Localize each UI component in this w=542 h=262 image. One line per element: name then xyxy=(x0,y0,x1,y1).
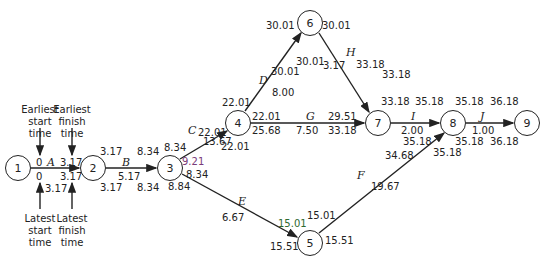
label-j-ef: 36.18 xyxy=(490,97,519,107)
label-g-lf: 33.18 xyxy=(328,126,357,136)
label-a-ef: 3.17 xyxy=(60,158,82,168)
label-n8-bot-right: 35.18 xyxy=(455,137,484,147)
label-n9-bot: 36.18 xyxy=(490,137,519,147)
label-c-lf-text: 22.01 xyxy=(221,141,250,152)
label-n6-right: 30.01 xyxy=(322,21,351,31)
activity-d: D xyxy=(259,75,268,86)
activity-a: A xyxy=(47,157,55,168)
label-n4-top: 22.01 xyxy=(222,98,251,108)
activity-h: H xyxy=(346,47,356,58)
label-h-duration: 3.17 xyxy=(323,61,345,71)
activity-e: E xyxy=(238,196,246,207)
edge-h xyxy=(319,33,369,112)
label-f-lf: 35.18 xyxy=(433,148,462,158)
node-1: 1 xyxy=(5,155,31,181)
label-a-es: 0 xyxy=(36,158,42,168)
label-n5-right: 15.51 xyxy=(325,236,354,246)
label-b-top: 8.34 xyxy=(137,147,159,157)
annotation-latest-finish: Latest finish time xyxy=(50,213,94,249)
node-9: 9 xyxy=(514,110,540,136)
label-n2-top: 3.17 xyxy=(100,147,122,157)
node-5: 5 xyxy=(297,230,323,256)
label-n3-e-es: 8.34 xyxy=(186,170,208,180)
node-2: 2 xyxy=(80,155,106,181)
label-a-ls: 0 xyxy=(36,172,42,182)
label-c-top: 8.34 xyxy=(164,143,186,153)
annotation-earliest-finish: Earliest finish time xyxy=(50,104,94,140)
node-8: 8 xyxy=(440,110,466,136)
label-n8-top-right: 35.18 xyxy=(455,97,484,107)
label-g-duration: 7.50 xyxy=(296,126,318,136)
activity-b: B xyxy=(122,157,130,168)
label-d-duration: 8.00 xyxy=(272,88,294,98)
label-j-duration: 1.00 xyxy=(472,126,494,136)
label-e-ef: 15.01 xyxy=(278,219,307,229)
label-d-lf: 30.01 xyxy=(271,67,300,77)
label-f-ls: 15.01 xyxy=(307,211,336,221)
activity-j: J xyxy=(480,111,484,122)
activity-c: C xyxy=(188,125,196,136)
label-b-lf: 8.34 xyxy=(137,183,159,193)
activity-f: F xyxy=(357,170,365,181)
label-i-ls-top: 33.18 xyxy=(381,97,410,107)
label-a-lf: 3.17 xyxy=(60,172,82,182)
label-n4-left: 22.01 xyxy=(198,128,227,138)
label-d-es: 30.01 xyxy=(296,57,325,67)
label-g-ef: 29.51 xyxy=(328,112,357,122)
node-6: 6 xyxy=(297,10,323,36)
label-g-es: 22.01 xyxy=(252,112,281,122)
label-g-ls: 25.68 xyxy=(252,126,281,136)
label-e-duration: 6.67 xyxy=(222,213,244,223)
activity-g: G xyxy=(306,111,315,122)
activity-i: I xyxy=(411,111,415,122)
label-f-duration: 19.67 xyxy=(371,182,400,192)
node-7: 7 xyxy=(365,110,391,136)
label-h-lf: 33.18 xyxy=(356,60,385,70)
label-n2-bot: 3.17 xyxy=(100,183,122,193)
label-n6-left: 30.01 xyxy=(266,21,295,31)
label-n3-c-es: 9.21 xyxy=(182,157,204,167)
label-n5-left: 15.51 xyxy=(270,242,299,252)
label-n8-top-left: 35.18 xyxy=(415,97,444,107)
label-n3-e-ls: 8.84 xyxy=(168,182,190,192)
label-b-duration: 5.17 xyxy=(118,172,140,182)
label-i-duration: 2.00 xyxy=(401,126,423,136)
label-a-duration: 3.17 xyxy=(45,184,67,194)
label-f-es: 34.68 xyxy=(385,151,414,161)
node-3: 3 xyxy=(157,155,183,181)
label-n7-top: 33.18 xyxy=(382,70,411,80)
label-i-lf: 35.18 xyxy=(403,137,432,147)
